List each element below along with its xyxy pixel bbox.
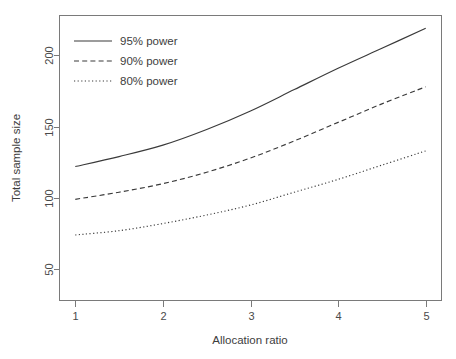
y-tick-label: 100: [43, 189, 55, 207]
line-chart: 50100150200 12345 Total sample size Allo…: [0, 0, 456, 359]
x-tick-label: 4: [335, 310, 341, 322]
legend-label: 95% power: [120, 35, 178, 47]
y-tick-label: 150: [43, 118, 55, 136]
x-tick-label: 1: [72, 310, 78, 322]
x-tick-label: 5: [423, 310, 429, 322]
x-tick-label: 3: [248, 310, 254, 322]
legend-label: 90% power: [120, 55, 178, 67]
x-axis-title: Allocation ratio: [212, 334, 287, 346]
y-axis-title: Total sample size: [10, 114, 22, 202]
chart-figure: 50100150200 12345 Total sample size Allo…: [0, 0, 456, 359]
y-tick-label: 50: [43, 263, 55, 275]
chart-background: [0, 0, 456, 359]
x-tick-label: 2: [160, 310, 166, 322]
y-tick-label: 200: [43, 46, 55, 64]
legend-label: 80% power: [120, 75, 178, 87]
